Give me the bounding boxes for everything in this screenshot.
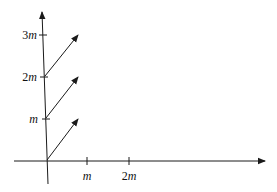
y-label-m: m bbox=[29, 112, 38, 126]
y-label-3m: 3m bbox=[22, 28, 37, 42]
vector-diagram: m 2m 3m m 2m bbox=[0, 0, 277, 192]
vector-arrow-2 bbox=[46, 77, 78, 118]
y-axis bbox=[42, 12, 48, 184]
y-label-2m: 2m bbox=[22, 70, 37, 84]
vector-arrow-3 bbox=[45, 35, 78, 76]
vector-arrow-1 bbox=[47, 119, 78, 160]
x-label-2m: 2m bbox=[122, 169, 137, 183]
x-label-m: m bbox=[83, 169, 92, 183]
